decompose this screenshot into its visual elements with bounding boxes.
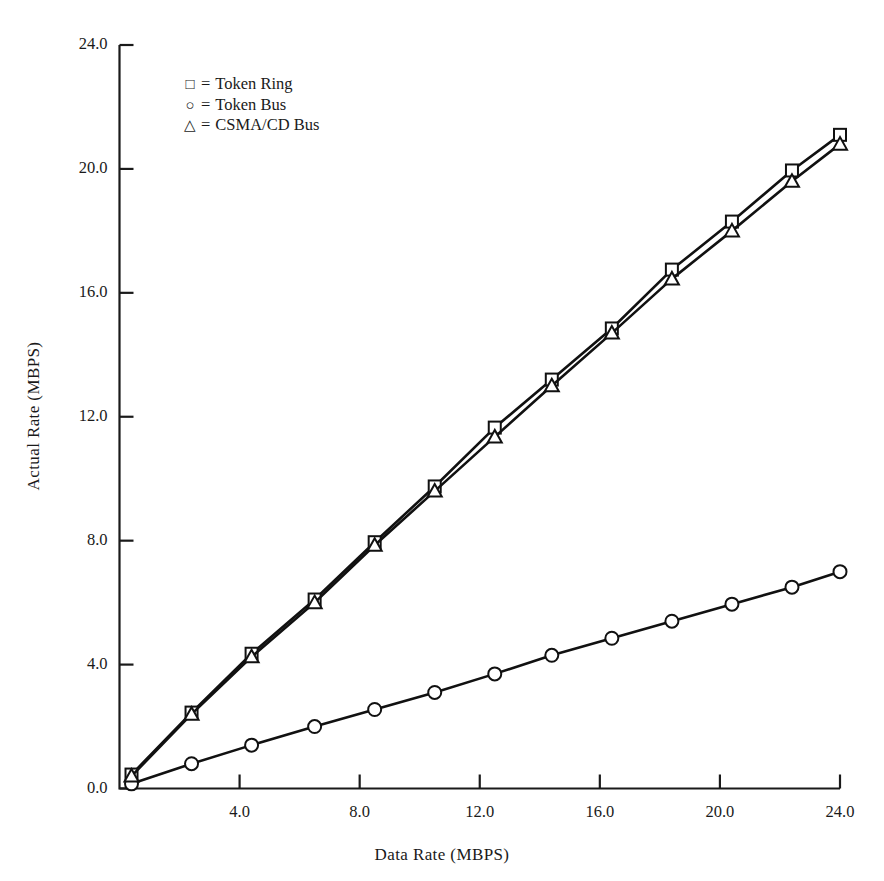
- x-tick-label: 24.0: [810, 802, 870, 822]
- legend-label: Token Bus: [215, 95, 286, 116]
- legend-equals-sign: =: [201, 95, 210, 116]
- x-tick-label: 16.0: [570, 802, 630, 822]
- chart-series-triangle: [125, 137, 847, 781]
- legend-equals-sign: =: [201, 115, 210, 136]
- chart-series-circle: [125, 565, 846, 790]
- y-tick-label: 0.0: [50, 778, 108, 798]
- y-tick-label: 20.0: [50, 158, 108, 178]
- chart-series-group: [125, 129, 847, 791]
- x-tick-label: 12.0: [450, 802, 510, 822]
- x-tick-label: 8.0: [330, 802, 390, 822]
- legend-equals-sign: =: [201, 74, 210, 95]
- x-axis-title: Data Rate (MBPS): [0, 845, 884, 865]
- x-tick-label: 20.0: [690, 802, 750, 822]
- chart-legend: □=Token Ring○=Token Bus△=CSMA/CD Bus: [182, 74, 319, 136]
- y-tick-label: 16.0: [50, 282, 108, 302]
- legend-item-circle: ○=Token Bus: [182, 95, 319, 116]
- y-tick-label: 24.0: [50, 34, 108, 54]
- triangle-marker-icon: △: [182, 115, 198, 136]
- line-chart-canvas: [0, 0, 884, 881]
- legend-item-triangle: △=CSMA/CD Bus: [182, 115, 319, 136]
- circle-marker-icon: ○: [182, 95, 198, 116]
- chart-figure: 0.04.08.012.016.020.024.0 4.08.012.016.0…: [0, 0, 884, 881]
- y-tick-label: 4.0: [50, 654, 108, 674]
- legend-label: Token Ring: [215, 74, 292, 95]
- square-marker-icon: □: [182, 74, 198, 95]
- legend-item-square: □=Token Ring: [182, 74, 319, 95]
- y-tick-label: 12.0: [50, 406, 108, 426]
- x-tick-label: 4.0: [210, 802, 270, 822]
- y-axis-title: Actual Rate (MBPS): [24, 286, 44, 546]
- y-tick-label: 8.0: [50, 530, 108, 550]
- legend-label: CSMA/CD Bus: [215, 115, 319, 136]
